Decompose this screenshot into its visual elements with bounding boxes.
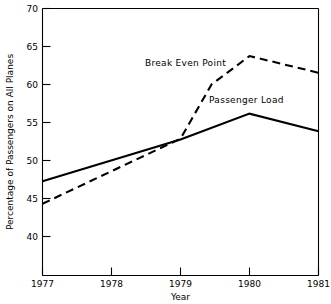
y-tick-label-45: 45 [27, 194, 38, 204]
y-tick-label-50: 50 [27, 156, 39, 166]
series-annotations: Break Even Point Passenger Load [145, 58, 284, 105]
chart-figure: 70 65 60 55 50 45 40 1977 1978 1979 1980… [0, 0, 331, 304]
y-tick-label-55: 55 [27, 118, 38, 128]
x-tick-label-1981: 1981 [307, 279, 330, 289]
y-axis-title: Percentage of Passengers on All Planes [5, 54, 15, 230]
x-tick-label-1980: 1980 [238, 279, 261, 289]
annotation-break-even-point: Break Even Point [145, 58, 226, 68]
annotation-passenger-load: Passenger Load [209, 95, 284, 105]
y-tick-label-40: 40 [27, 232, 39, 242]
x-axis-ticks [43, 268, 319, 276]
x-axis-tick-labels: 1977 1978 1979 1980 1981 [31, 279, 330, 289]
y-tick-label-65: 65 [27, 42, 38, 52]
line-chart: 70 65 60 55 50 45 40 1977 1978 1979 1980… [0, 0, 331, 304]
x-axis-title: Year [170, 292, 190, 302]
series-passenger-load [43, 114, 319, 182]
y-tick-label-70: 70 [27, 4, 39, 14]
y-tick-label-60: 60 [27, 80, 39, 90]
x-tick-label-1978: 1978 [100, 279, 123, 289]
y-axis-tick-labels: 70 65 60 55 50 45 40 [27, 4, 39, 242]
x-tick-label-1977: 1977 [31, 279, 54, 289]
plot-frame [43, 9, 319, 276]
series-group [43, 56, 319, 204]
x-tick-label-1979: 1979 [169, 279, 192, 289]
series-break-even-point [43, 56, 319, 204]
